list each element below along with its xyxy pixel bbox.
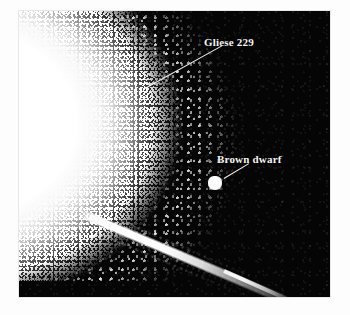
brown-dwarf-point-source bbox=[208, 176, 222, 190]
astronomical-photograph: Gliese 229 Brown dwarf bbox=[19, 11, 330, 297]
page-background: Gliese 229 Brown dwarf bbox=[0, 0, 350, 315]
annotation-label-brown-dwarf: Brown dwarf bbox=[217, 153, 282, 165]
annotation-label-gliese: Gliese 229 bbox=[204, 36, 254, 48]
